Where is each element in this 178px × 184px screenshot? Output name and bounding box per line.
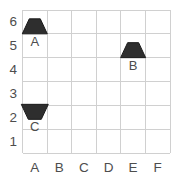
grid-canvas: 654321ABCDEFABC — [0, 0, 178, 184]
shape-label-b: B — [129, 58, 138, 73]
x-axis-tick-label: F — [154, 160, 162, 175]
x-axis-tick-label: D — [104, 160, 114, 175]
shape-trapezoid-c — [21, 104, 48, 119]
shape-trapezoid-b — [121, 43, 146, 58]
shape-label-c: C — [30, 119, 39, 134]
y-axis-tick-label: 1 — [9, 134, 17, 149]
x-axis-tick-label: B — [55, 160, 64, 175]
x-axis-tick-label: A — [30, 160, 39, 175]
y-axis-tick-label: 6 — [9, 14, 17, 29]
shape-trapezoid-a — [22, 19, 47, 34]
y-axis-tick-label: 3 — [9, 86, 17, 101]
y-axis-tick-label: 5 — [9, 38, 17, 53]
x-axis-tick-label: E — [129, 160, 138, 175]
y-axis-tick-label: 2 — [9, 110, 17, 125]
coordinate-grid-figure: 654321ABCDEFABC — [0, 0, 178, 184]
shape-label-a: A — [30, 34, 39, 49]
y-axis-tick-label: 4 — [9, 62, 17, 77]
x-axis-tick-label: C — [79, 160, 89, 175]
